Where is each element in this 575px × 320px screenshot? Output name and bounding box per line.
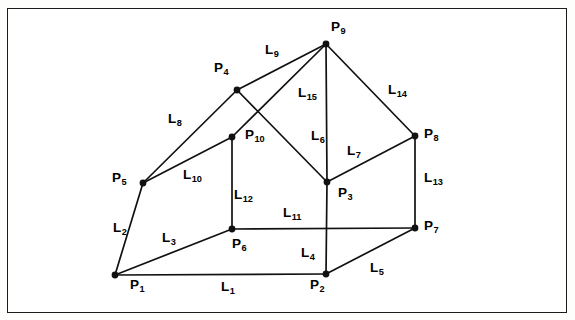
edge-l1 <box>115 274 326 275</box>
edge-label-l11-subscript: 11 <box>292 212 302 222</box>
vertex-dot-p9 <box>323 41 330 48</box>
vertex-label-p7: P7 <box>424 219 438 233</box>
edge-label-l3-base: L <box>162 230 170 245</box>
edge-label-l9: L9 <box>265 43 279 57</box>
vertex-dot-p6 <box>229 226 236 233</box>
edge-label-l5-base: L <box>370 260 378 275</box>
edge-label-l4-subscript: 4 <box>310 252 315 262</box>
vertex-label-p10: P10 <box>245 128 265 142</box>
edge-label-l10: L10 <box>183 168 202 182</box>
edge-l6 <box>326 44 327 182</box>
vertex-label-p2: P2 <box>310 278 324 292</box>
edge-label-l15-base: L <box>298 85 306 100</box>
vertex-dot-p2 <box>323 271 330 278</box>
vertex-dot-p10 <box>229 134 236 141</box>
vertex-label-p8-base: P <box>424 126 433 141</box>
vertex-label-p9: P9 <box>331 20 345 34</box>
edge-label-l11: L11 <box>283 206 301 220</box>
vertex-label-p4: P4 <box>214 61 228 75</box>
edge-label-l15-subscript: 15 <box>307 92 317 102</box>
vertex-label-p1-base: P <box>130 277 139 292</box>
vertex-label-p2-base: P <box>310 277 319 292</box>
edge-l9 <box>237 44 326 90</box>
edge-label-l6: L6 <box>311 129 325 143</box>
vertex-label-p4-subscript: 4 <box>223 67 228 77</box>
edge-label-l2-base: L <box>113 220 121 235</box>
edge-label-l13-base: L <box>424 170 432 185</box>
edge-label-l7-subscript: 7 <box>356 150 361 160</box>
edge-label-l12-base: L <box>234 187 242 202</box>
edge-label-l1-base: L <box>221 279 229 294</box>
vertex-label-p10-base: P <box>245 127 254 142</box>
vertex-dot-p8 <box>412 133 419 140</box>
edge-label-l10-base: L <box>183 167 191 182</box>
edge-label-l7-base: L <box>347 143 355 158</box>
vertex-label-p9-base: P <box>331 19 340 34</box>
vertex-label-p2-subscript: 2 <box>319 284 324 294</box>
edge-label-l10-subscript: 10 <box>192 174 202 184</box>
vertex-dot-p5 <box>140 180 147 187</box>
figure-root: P1P2P3P4P5P6P7P8P9P10L1L2L3L4L5L6L7L8L9L… <box>0 0 575 320</box>
edge-label-l6-subscript: 6 <box>320 135 325 145</box>
edges-group <box>115 44 415 275</box>
edge-label-l14-subscript: 14 <box>397 89 407 99</box>
edge-label-l3: L3 <box>162 231 176 245</box>
edge-label-l13-subscript: 13 <box>433 177 443 187</box>
vertex-label-p5-subscript: 5 <box>121 177 126 187</box>
vertex-label-p5-base: P <box>112 170 121 185</box>
vertex-dot-p7 <box>412 225 419 232</box>
edge-label-l7: L7 <box>347 144 361 158</box>
edge-label-l3-subscript: 3 <box>171 237 176 247</box>
vertex-label-p3-base: P <box>338 185 347 200</box>
diagram-canvas <box>0 0 575 320</box>
edge-label-l15: L15 <box>298 86 317 100</box>
vertex-dot-p4 <box>234 87 241 94</box>
edge-label-l2: L2 <box>113 221 127 235</box>
vertex-label-p10-subscript: 10 <box>254 134 264 144</box>
vertex-label-p6: P6 <box>232 237 246 251</box>
edge-label-l12: L12 <box>234 188 253 202</box>
vertex-label-p8: P8 <box>424 127 438 141</box>
edge-label-l1: L1 <box>221 280 235 294</box>
vertex-label-p6-base: P <box>232 236 241 251</box>
edge-label-l5: L5 <box>370 261 384 275</box>
edge-label-l11-base: L <box>283 205 291 220</box>
vertex-label-p4-base: P <box>214 60 223 75</box>
vertex-label-p5: P5 <box>112 171 126 185</box>
edge-label-l9-subscript: 9 <box>274 49 279 59</box>
vertex-label-p1-subscript: 1 <box>139 284 144 294</box>
edge-label-l12-subscript: 12 <box>243 194 253 204</box>
edge-label-l13: L13 <box>424 171 443 185</box>
edge-label-l5-subscript: 5 <box>379 267 384 277</box>
edge-label-l1-subscript: 1 <box>230 286 235 296</box>
edge-label-l14: L14 <box>388 83 407 97</box>
vertex-label-p7-base: P <box>424 218 433 233</box>
edge-label-l8-base: L <box>168 111 176 126</box>
edge-label-l6-base: L <box>311 128 319 143</box>
edge-label-l9-base: L <box>265 42 273 57</box>
edge-label-l8-subscript: 8 <box>177 118 182 128</box>
vertex-label-p7-subscript: 7 <box>433 225 438 235</box>
edge-label-l8: L8 <box>168 112 182 126</box>
edge-label-l14-base: L <box>388 82 396 97</box>
vertex-label-p3-subscript: 3 <box>347 192 352 202</box>
edge-l7 <box>327 136 415 182</box>
vertex-label-p3: P3 <box>338 186 352 200</box>
edge-label-l4: L4 <box>301 246 315 260</box>
edge-label-l4-base: L <box>301 245 309 260</box>
edge-label-l2-subscript: 2 <box>122 227 127 237</box>
vertex-dot-p3 <box>324 179 331 186</box>
edge-l11 <box>232 228 415 229</box>
vertex-label-p1: P1 <box>130 278 144 292</box>
vertex-dot-p1 <box>112 272 119 279</box>
vertex-label-p8-subscript: 8 <box>433 133 438 143</box>
vertex-label-p9-subscript: 9 <box>340 26 345 36</box>
vertex-label-p6-subscript: 6 <box>241 243 246 253</box>
